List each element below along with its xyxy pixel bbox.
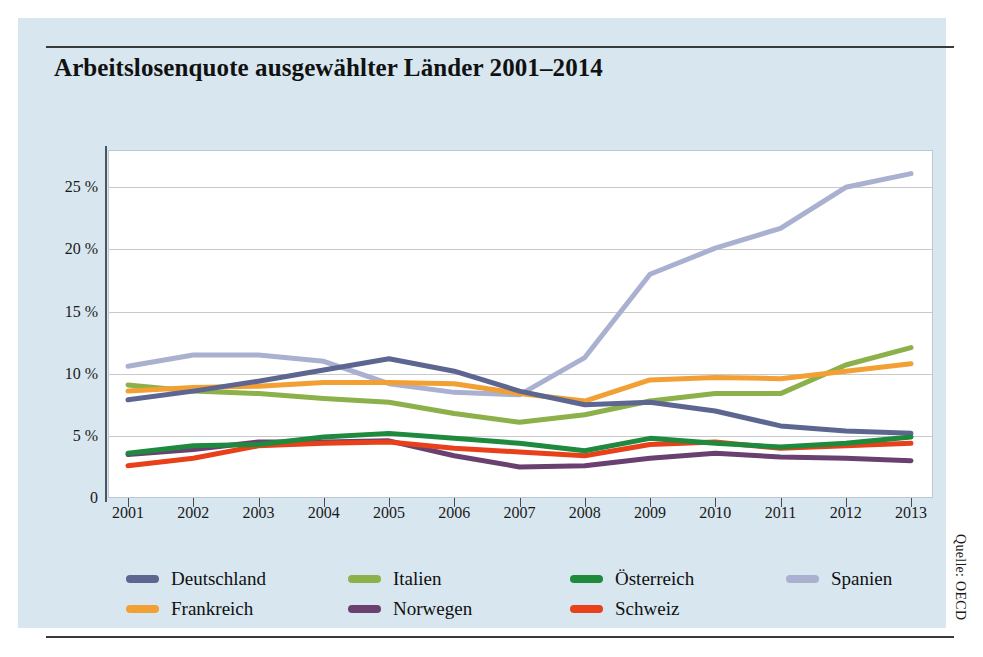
y-axis-line <box>105 146 107 502</box>
legend-item-norwegen[interactable]: Norwegen <box>348 598 570 620</box>
y-axis-tick-label: 20 % <box>65 240 98 258</box>
page-title: Arbeitslosenquote ausgewählter Länder 20… <box>54 54 603 82</box>
x-axis-tick-label: 2007 <box>504 504 536 522</box>
y-axis-tick-label: 15 % <box>65 303 98 321</box>
legend-swatch-icon <box>786 575 819 583</box>
legend-swatch-icon <box>126 575 159 583</box>
legend-label: Italien <box>393 568 442 590</box>
legend-item-spanien[interactable]: Spanien <box>786 568 916 590</box>
legend: DeutschlandItalienÖsterreichSpanienFrank… <box>126 564 916 624</box>
y-axis-tick-label: 10 % <box>65 365 98 383</box>
x-axis-tick-label: 2001 <box>112 504 144 522</box>
chart-page: Arbeitslosenquote ausgewählter Länder 20… <box>0 0 983 657</box>
y-axis-tick-label: 0 <box>90 489 98 507</box>
x-axis-tick-label: 2006 <box>438 504 470 522</box>
legend-item-frankreich[interactable]: Frankreich <box>126 598 348 620</box>
x-axis-tick-label: 2011 <box>765 504 796 522</box>
legend-swatch-icon <box>570 575 603 583</box>
legend-label: Spanien <box>831 568 892 590</box>
x-axis-tick-label: 2013 <box>895 504 927 522</box>
x-axis-tick-label: 2010 <box>699 504 731 522</box>
legend-label: Deutschland <box>171 568 266 590</box>
x-axis-tick-label: 2002 <box>177 504 209 522</box>
x-axis-tick-label: 2005 <box>373 504 405 522</box>
y-axis-tick-label: 5 % <box>73 427 98 445</box>
plot-wrapper: 05 %10 %15 %20 %25 % 2001200220032004200… <box>108 150 933 498</box>
x-axis-tick-label: 2012 <box>830 504 862 522</box>
legend-swatch-icon <box>570 605 603 613</box>
legend-item-österreich[interactable]: Österreich <box>570 568 786 590</box>
x-axis-tick-label: 2004 <box>308 504 340 522</box>
x-axis-tick-label: 2003 <box>243 504 275 522</box>
chart-panel: Arbeitslosenquote ausgewählter Länder 20… <box>18 18 946 628</box>
series-line-spanien <box>128 174 911 395</box>
series-lines <box>108 150 933 498</box>
legend-label: Schweiz <box>615 598 679 620</box>
legend-item-italien[interactable]: Italien <box>348 568 570 590</box>
y-axis-tick-label: 25 % <box>65 178 98 196</box>
legend-label: Frankreich <box>171 598 253 620</box>
legend-label: Österreich <box>615 568 694 590</box>
legend-label: Norwegen <box>393 598 472 620</box>
legend-item-deutschland[interactable]: Deutschland <box>126 568 348 590</box>
legend-swatch-icon <box>126 605 159 613</box>
x-axis-tick-label: 2009 <box>634 504 666 522</box>
source-note: Quelle: OECD <box>952 534 968 620</box>
x-axis-tick-label: 2008 <box>569 504 601 522</box>
legend-swatch-icon <box>348 605 381 613</box>
legend-item-schweiz[interactable]: Schweiz <box>570 598 786 620</box>
legend-swatch-icon <box>348 575 381 583</box>
